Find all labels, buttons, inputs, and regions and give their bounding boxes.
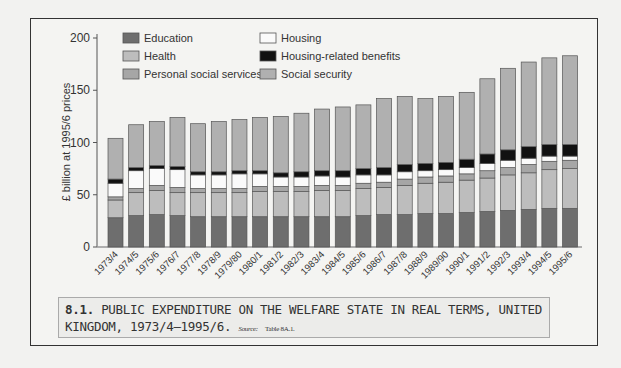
bar-segment — [108, 218, 123, 247]
bar-segment — [273, 116, 288, 172]
bar-segment — [418, 177, 433, 183]
y-tick-label: 100 — [70, 136, 90, 150]
bar-segment — [149, 169, 164, 186]
bar-segment — [439, 97, 454, 163]
bar-segment — [542, 161, 557, 169]
bar-segment — [377, 182, 392, 187]
bar-segment — [170, 193, 185, 216]
bar-segment — [356, 175, 371, 183]
bar-segment — [191, 217, 206, 247]
bar-1980-1 — [253, 117, 268, 247]
bar-1988-9 — [418, 99, 433, 247]
bar-segment — [294, 177, 309, 186]
bar-segment — [211, 172, 226, 175]
bar-segment — [191, 172, 206, 175]
bar-segment — [480, 163, 495, 170]
legend-label: Health — [144, 50, 176, 62]
bar-segment — [273, 177, 288, 186]
bar-segment — [397, 185, 412, 214]
bar-segment — [108, 138, 123, 179]
bar-segment — [501, 160, 516, 167]
bar-segment — [397, 179, 412, 185]
bar-segment — [253, 186, 268, 191]
legend-swatch — [123, 51, 139, 61]
bar-1992-3 — [501, 68, 516, 247]
bar-segment — [232, 174, 247, 189]
bar-segment — [356, 216, 371, 247]
bar-1978-9 — [211, 122, 226, 247]
bar-1981-2 — [273, 116, 288, 247]
y-axis-label: £ billion at 1995/6 prices — [60, 82, 72, 201]
bar-segment — [480, 178, 495, 211]
bar-segment — [191, 193, 206, 217]
legend-label: Housing-related benefits — [281, 50, 401, 62]
bar-segment — [315, 217, 330, 247]
bar-1982-3 — [294, 113, 309, 247]
bar-segment — [211, 217, 226, 247]
bars — [108, 56, 578, 247]
bar-segment — [294, 172, 309, 177]
bar-segment — [315, 185, 330, 190]
bar-segment — [315, 191, 330, 217]
bar-segment — [335, 185, 350, 190]
bar-segment — [294, 113, 309, 172]
bar-1975-6 — [149, 122, 164, 247]
bar-segment — [397, 97, 412, 165]
x-tick-label: 1995/6 — [546, 249, 574, 277]
bar-segment — [170, 167, 185, 170]
bar-segment — [439, 162, 454, 169]
y-tick-label: 150 — [70, 83, 90, 97]
bar-segment — [356, 188, 371, 215]
bar-segment — [459, 213, 474, 247]
legend-label: Personal social services — [144, 68, 262, 80]
bar-segment — [211, 193, 226, 217]
bar-segment — [211, 122, 226, 172]
bar-1994-5 — [542, 58, 557, 247]
bar-segment — [108, 183, 123, 197]
legend-swatch — [123, 69, 139, 79]
bar-segment — [335, 217, 350, 247]
bar-segment — [397, 215, 412, 247]
y-tick-label: 0 — [83, 240, 90, 254]
bar-segment — [129, 168, 144, 171]
bar-segment — [501, 168, 516, 175]
bar-1983-4 — [315, 109, 330, 247]
bar-segment — [108, 179, 123, 183]
bar-1985-6 — [356, 105, 371, 247]
bar-segment — [335, 171, 350, 177]
bar-segment — [273, 192, 288, 217]
bar-segment — [149, 122, 164, 166]
bar-segment — [563, 169, 578, 209]
bar-segment — [335, 191, 350, 217]
bar-segment — [294, 186, 309, 191]
bar-segment — [459, 92, 474, 159]
bar-segment — [521, 147, 536, 158]
bar-segment — [335, 177, 350, 185]
bar-1984-5 — [335, 107, 350, 247]
bar-segment — [501, 175, 516, 211]
legend-label: Education — [144, 32, 193, 44]
bar-segment — [253, 217, 268, 247]
bar-segment — [418, 183, 433, 213]
bar-segment — [129, 171, 144, 189]
bar-segment — [232, 188, 247, 192]
bar-segment — [459, 168, 474, 174]
bar-segment — [459, 159, 474, 167]
y-tick-label: 200 — [70, 31, 90, 45]
bar-segment — [459, 180, 474, 212]
bar-segment — [439, 182, 454, 213]
bar-segment — [149, 165, 164, 168]
stacked-bar-chart: 050100150200 1973/41974/51975/61976/7197… — [0, 0, 621, 290]
bar-1995-6 — [563, 56, 578, 247]
bar-segment — [273, 217, 288, 247]
bar-segment — [542, 156, 557, 161]
bar-segment — [418, 171, 433, 177]
bar-segment — [129, 125, 144, 168]
bar-1974-5 — [129, 125, 144, 247]
bar-segment — [211, 175, 226, 189]
bar-1976-7 — [170, 117, 185, 247]
bar-1987-8 — [397, 97, 412, 247]
bar-segment — [232, 171, 247, 174]
bar-segment — [501, 210, 516, 247]
bar-segment — [335, 107, 350, 171]
